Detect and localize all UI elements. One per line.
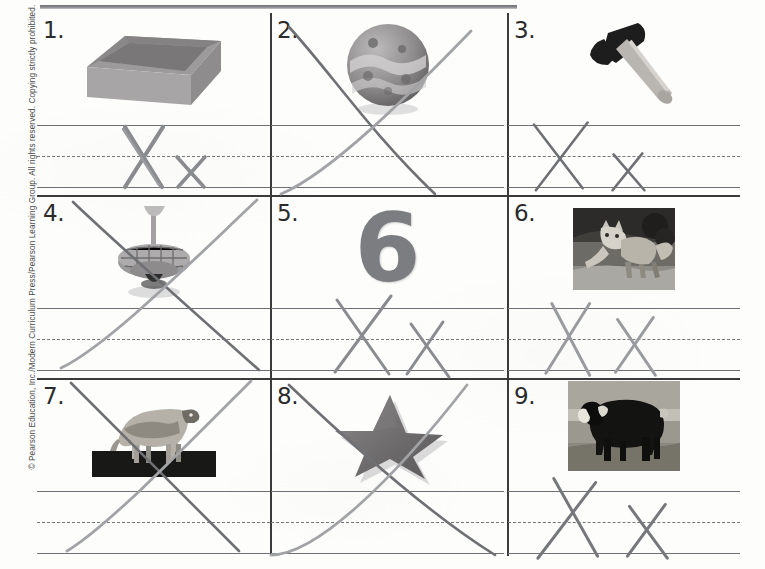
rule-line-mid-6: [508, 339, 740, 340]
rule-line-bottom-2: [271, 187, 504, 188]
cell-number-7: 7.: [43, 383, 64, 409]
rule-line-top-9: [508, 491, 740, 492]
rule-line-top-7: [37, 491, 270, 492]
exercise-cell-1[interactable]: 1.: [37, 13, 270, 194]
rule-line-mid-4: [37, 339, 270, 340]
cell-number-6: 6.: [514, 200, 535, 226]
cell-number-2: 2.: [277, 17, 298, 43]
rule-line-mid-7: [37, 522, 270, 523]
rule-line-mid-5: [271, 339, 504, 340]
cell-number-3: 3.: [514, 17, 535, 43]
picture-box: [79, 23, 229, 115]
picture-six: 6: [354, 198, 420, 298]
picture-axe: [564, 21, 684, 117]
rule-line-bottom-6: [508, 370, 740, 371]
picture-ox: [90, 389, 218, 477]
rule-line-bottom-3: [508, 187, 740, 188]
exercise-cell-5[interactable]: 5. 6: [271, 196, 504, 377]
cell-number-5: 5.: [277, 200, 298, 226]
picture-ball: [340, 21, 436, 117]
rule-line-top-3: [508, 125, 740, 126]
rule-line-bottom-8: [271, 553, 504, 554]
cell-number-9: 9.: [514, 383, 535, 409]
rule-line-bottom-1: [37, 187, 270, 188]
rule-line-mid-9: [508, 522, 740, 523]
rule-line-mid-2: [271, 156, 504, 157]
exercise-cell-9[interactable]: 9.: [508, 379, 740, 560]
rule-line-top-5: [271, 308, 504, 309]
rule-line-top-4: [37, 308, 270, 309]
exercise-cell-2[interactable]: 2.: [271, 13, 504, 194]
cell-number-4: 4.: [43, 200, 64, 226]
exercise-cell-6[interactable]: 6.: [508, 196, 740, 377]
rule-line-bottom-4: [37, 370, 270, 371]
rule-line-mid-1: [37, 156, 270, 157]
worksheet-grid: 1. 2.: [37, 13, 740, 556]
picture-top: [99, 200, 209, 304]
exercise-cell-7[interactable]: 7.: [37, 379, 270, 560]
top-header-rule: [40, 5, 517, 9]
picture-star: [333, 387, 443, 482]
rule-line-mid-8: [271, 522, 504, 523]
rule-line-bottom-5: [271, 370, 504, 371]
rule-line-mid-3: [508, 156, 740, 157]
picture-fox: [573, 208, 675, 290]
cell-number-8: 8.: [277, 383, 298, 409]
rule-line-bottom-7: [37, 553, 270, 554]
exercise-cell-3[interactable]: 3.: [508, 13, 740, 194]
rule-line-bottom-9: [508, 553, 740, 554]
picture-musk-ox: [568, 381, 680, 471]
rule-line-top-2: [271, 125, 504, 126]
exercise-cell-4[interactable]: 4.: [37, 196, 270, 377]
rule-line-top-1: [37, 125, 270, 126]
exercise-cell-8[interactable]: 8.: [271, 379, 504, 560]
rule-line-top-6: [508, 308, 740, 309]
copyright-notice: © Pearson Education, Inc./Modern Curricu…: [28, 50, 37, 470]
rule-line-top-8: [271, 491, 504, 492]
cell-number-1: 1.: [43, 17, 64, 43]
